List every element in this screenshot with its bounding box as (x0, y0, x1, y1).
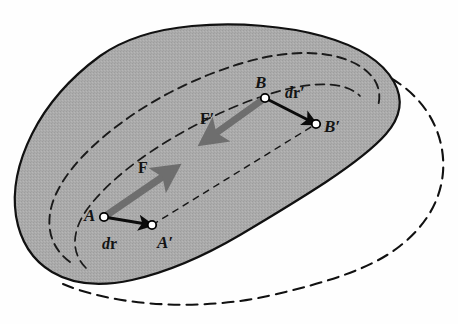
label-point-b-prime: B′ (324, 118, 340, 135)
label-point-b: B (255, 74, 266, 91)
label-displacement-dr-prime: dr′ (285, 85, 305, 101)
label-force-f: F (138, 160, 148, 176)
point-marker-a-prime (148, 221, 156, 229)
figure-container: A A′ B B′ F F′ dr dr′ (0, 0, 458, 324)
label-dr-r: r (110, 235, 117, 252)
label-dr-d: d (102, 235, 110, 252)
label-drp-prime: ′ (300, 84, 305, 101)
point-marker-b-prime (312, 120, 320, 128)
label-displacement-dr: dr (102, 236, 117, 252)
body-fill (15, 24, 400, 283)
point-marker-b (261, 94, 269, 102)
deformable-body-diagram (0, 0, 458, 324)
point-marker-a (100, 213, 108, 221)
label-force-f-prime: F′ (200, 111, 214, 127)
label-point-a-prime: A′ (157, 234, 173, 251)
label-drp-d: d (285, 84, 293, 101)
label-point-a: A (84, 207, 95, 224)
